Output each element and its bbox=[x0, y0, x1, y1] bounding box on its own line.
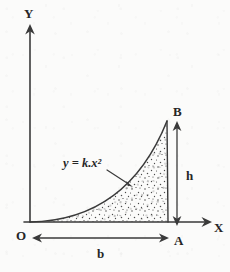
parabola-area-diagram: Y X O A B h b y = k.x² bbox=[0, 0, 230, 272]
y-axis-label: Y bbox=[24, 6, 34, 21]
height-label: h bbox=[186, 168, 194, 183]
base-dimension bbox=[32, 234, 169, 243]
curve-equation-label: y = k.x² bbox=[61, 156, 102, 170]
height-dimension bbox=[173, 121, 182, 226]
segment-ab bbox=[167, 121, 168, 222]
y-axis bbox=[25, 24, 35, 222]
figure-canvas: Y X O A B h b y = k.x² bbox=[0, 0, 230, 272]
point-a-label: A bbox=[174, 233, 184, 248]
base-label: b bbox=[97, 246, 104, 261]
origin-label: O bbox=[16, 228, 26, 243]
x-axis-label: X bbox=[214, 220, 224, 235]
shaded-region-under-curve bbox=[28, 115, 173, 227]
point-b-label: B bbox=[173, 104, 182, 119]
equation-pointer-arrow bbox=[107, 170, 133, 187]
